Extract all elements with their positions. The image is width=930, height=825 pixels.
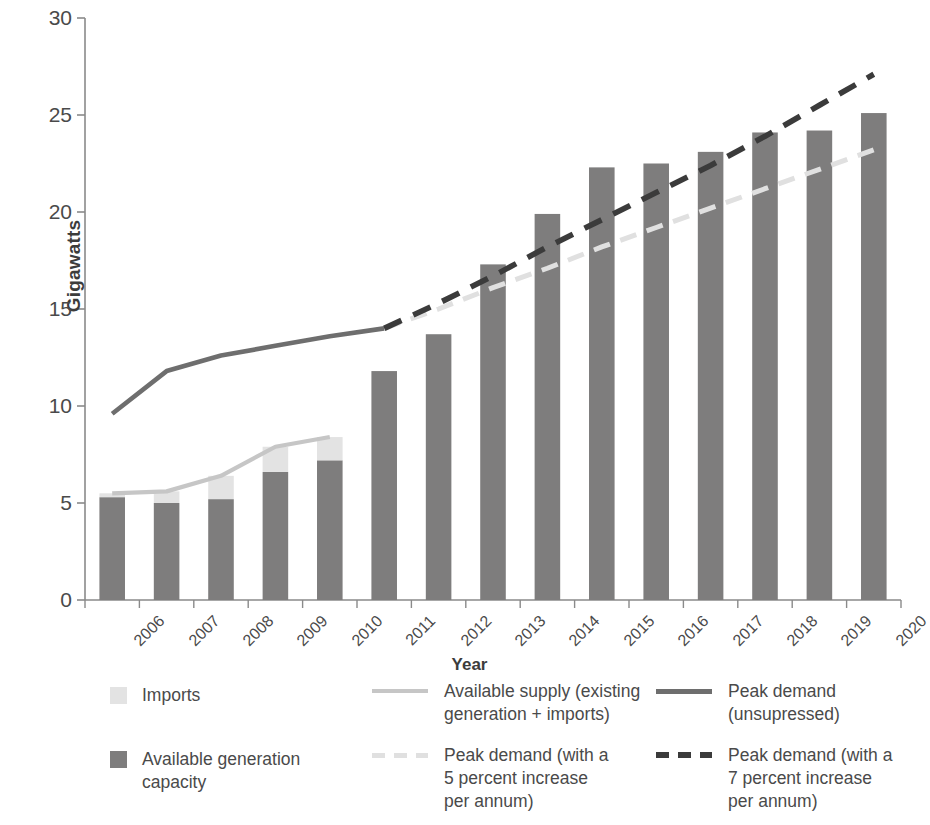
legend-item-imports[interactable]: Imports (110, 684, 350, 707)
bar-generation-capacity (752, 132, 778, 600)
legend-item-available-supply[interactable]: Available supply (existing generation + … (372, 680, 642, 726)
bar-generation-capacity (371, 371, 397, 600)
legend-item-gen-capacity[interactable]: Available generation capacity (110, 748, 350, 794)
bar-generation-capacity (535, 214, 561, 600)
line-peak-demand-7-percent (384, 74, 874, 328)
legend-label-imports: Imports (110, 684, 350, 707)
bar-generation-capacity (208, 499, 234, 600)
legend-line-available-supply (372, 689, 428, 693)
bar-generation-capacity (426, 334, 452, 600)
legend-label-available-supply: Available supply (existing generation + … (372, 680, 642, 726)
legend-item-peak-unsupressed[interactable]: Peak demand (unsupressed) (656, 680, 911, 726)
bar-generation-capacity (698, 152, 724, 600)
bar-generation-capacity (263, 472, 289, 600)
chart-legend: ImportsAvailable generation capacityAvai… (0, 684, 911, 825)
legend-line-peak-7pct (656, 752, 712, 758)
bar-generation-capacity (480, 264, 506, 600)
legend-line-peak-5pct (372, 753, 428, 758)
line-peak-demand-unsupressed (112, 328, 384, 413)
bar-generation-capacity (861, 113, 887, 600)
legend-swatch-gen-capacity (110, 751, 127, 768)
y-tick-label: 5 (28, 491, 72, 515)
bar-generation-capacity (154, 503, 180, 600)
x-axis-label-text: Year (452, 655, 488, 674)
y-tick-label: 30 (28, 6, 72, 30)
legend-item-peak-7pct[interactable]: Peak demand (with a 7 percent increase p… (656, 744, 911, 813)
bar-generation-capacity (317, 460, 343, 600)
legend-item-peak-5pct[interactable]: Peak demand (with a 5 percent increase p… (372, 744, 642, 813)
y-tick-label: 0 (28, 588, 72, 612)
bar-generation-capacity (807, 131, 833, 600)
legend-label-gen-capacity: Available generation capacity (110, 748, 350, 794)
y-tick-label: 25 (28, 103, 72, 127)
legend-label-peak-unsupressed: Peak demand (unsupressed) (656, 680, 911, 726)
y-axis-ticks: 051015202530 (26, 0, 72, 680)
legend-swatch-imports (110, 687, 127, 704)
plot-area: Gigawatts 051015202530 20062007200820092… (0, 0, 911, 680)
y-tick-label: 15 (28, 297, 72, 321)
bar-generation-capacity (589, 167, 615, 600)
y-tick-label: 20 (28, 200, 72, 224)
bar-generation-capacity (99, 497, 125, 600)
y-tick-label: 10 (28, 394, 72, 418)
line-peak-demand-5-percent (384, 150, 874, 328)
chart-canvas (0, 0, 911, 680)
x-axis-label: Year (0, 655, 911, 675)
legend-line-peak-unsupressed (656, 689, 712, 694)
